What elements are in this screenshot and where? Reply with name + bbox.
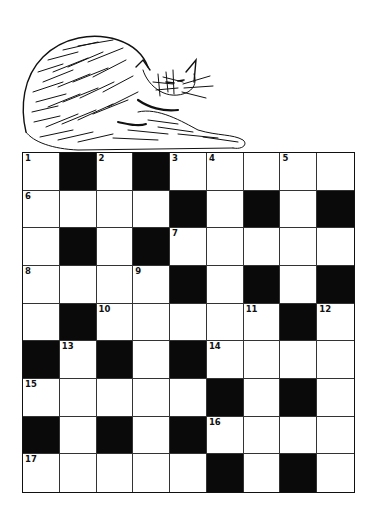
answer-cell[interactable]: 9 [133, 266, 170, 304]
answer-cell[interactable] [133, 304, 170, 342]
answer-cell[interactable] [60, 266, 97, 304]
answer-cell[interactable] [317, 454, 354, 492]
clue-number: 6 [25, 192, 31, 201]
answer-cell[interactable] [60, 417, 97, 455]
clue-number: 15 [25, 380, 37, 389]
answer-cell[interactable] [317, 341, 354, 379]
block-cell [280, 379, 317, 417]
clue-number: 5 [282, 154, 288, 163]
answer-cell[interactable] [207, 191, 244, 229]
answer-cell[interactable] [280, 266, 317, 304]
answer-cell[interactable]: 2 [97, 153, 134, 191]
answer-cell[interactable] [170, 454, 207, 492]
clue-number: 8 [25, 267, 31, 276]
answer-cell[interactable] [97, 266, 134, 304]
clue-number: 2 [99, 154, 105, 163]
answer-cell[interactable] [244, 153, 281, 191]
answer-cell[interactable] [133, 341, 170, 379]
answer-cell[interactable] [133, 454, 170, 492]
block-cell [23, 341, 60, 379]
block-cell [317, 266, 354, 304]
answer-cell[interactable] [97, 228, 134, 266]
answer-cell[interactable] [244, 454, 281, 492]
clue-number: 1 [25, 154, 31, 163]
clue-number: 4 [209, 154, 215, 163]
block-cell [170, 266, 207, 304]
block-cell [317, 191, 354, 229]
cat-illustration [18, 12, 253, 154]
answer-cell[interactable]: 6 [23, 191, 60, 229]
block-cell [23, 417, 60, 455]
answer-cell[interactable] [97, 454, 134, 492]
block-cell [207, 379, 244, 417]
block-cell [244, 266, 281, 304]
clue-number: 14 [209, 342, 221, 351]
block-cell [60, 153, 97, 191]
answer-cell[interactable]: 16 [207, 417, 244, 455]
answer-cell[interactable] [133, 417, 170, 455]
block-cell [133, 228, 170, 266]
answer-cell[interactable] [244, 228, 281, 266]
answer-cell[interactable] [207, 266, 244, 304]
answer-cell[interactable] [97, 379, 134, 417]
block-cell [280, 304, 317, 342]
clue-number: 17 [25, 455, 37, 464]
answer-cell[interactable] [280, 228, 317, 266]
answer-cell[interactable] [23, 304, 60, 342]
block-cell [133, 153, 170, 191]
answer-cell[interactable] [244, 341, 281, 379]
clue-number: 10 [99, 305, 111, 314]
block-cell [280, 454, 317, 492]
answer-cell[interactable] [317, 153, 354, 191]
block-cell [97, 417, 134, 455]
answer-cell[interactable]: 8 [23, 266, 60, 304]
answer-cell[interactable]: 1 [23, 153, 60, 191]
answer-cell[interactable] [60, 191, 97, 229]
block-cell [244, 191, 281, 229]
answer-cell[interactable]: 11 [244, 304, 281, 342]
block-cell [170, 417, 207, 455]
block-cell [97, 341, 134, 379]
answer-cell[interactable] [244, 379, 281, 417]
answer-cell[interactable] [280, 341, 317, 379]
answer-cell[interactable]: 14 [207, 341, 244, 379]
answer-cell[interactable]: 15 [23, 379, 60, 417]
answer-cell[interactable] [244, 417, 281, 455]
answer-cell[interactable] [280, 417, 317, 455]
answer-cell[interactable] [97, 191, 134, 229]
clue-number: 9 [135, 267, 141, 276]
answer-cell[interactable] [280, 191, 317, 229]
answer-cell[interactable] [60, 454, 97, 492]
answer-cell[interactable] [133, 379, 170, 417]
answer-cell[interactable] [317, 228, 354, 266]
clue-number: 16 [209, 418, 221, 427]
answer-cell[interactable] [60, 379, 97, 417]
crossword-grid: 1234567891011121314151617 [22, 152, 355, 493]
answer-cell[interactable] [207, 304, 244, 342]
answer-cell[interactable]: 13 [60, 341, 97, 379]
answer-cell[interactable] [317, 417, 354, 455]
answer-cell[interactable]: 7 [170, 228, 207, 266]
clue-number: 13 [62, 342, 74, 351]
answer-cell[interactable]: 3 [170, 153, 207, 191]
block-cell [60, 228, 97, 266]
answer-cell[interactable] [170, 379, 207, 417]
answer-cell[interactable]: 4 [207, 153, 244, 191]
block-cell [60, 304, 97, 342]
block-cell [170, 341, 207, 379]
clue-number: 3 [172, 154, 178, 163]
answer-cell[interactable]: 5 [280, 153, 317, 191]
answer-cell[interactable]: 17 [23, 454, 60, 492]
answer-cell[interactable] [170, 304, 207, 342]
answer-cell[interactable] [23, 228, 60, 266]
answer-cell[interactable]: 12 [317, 304, 354, 342]
answer-cell[interactable] [317, 379, 354, 417]
answer-cell[interactable]: 10 [97, 304, 134, 342]
clue-number: 7 [172, 229, 178, 238]
answer-cell[interactable] [207, 228, 244, 266]
block-cell [170, 191, 207, 229]
clue-number: 11 [246, 305, 258, 314]
clue-number: 12 [319, 305, 331, 314]
block-cell [207, 454, 244, 492]
answer-cell[interactable] [133, 191, 170, 229]
